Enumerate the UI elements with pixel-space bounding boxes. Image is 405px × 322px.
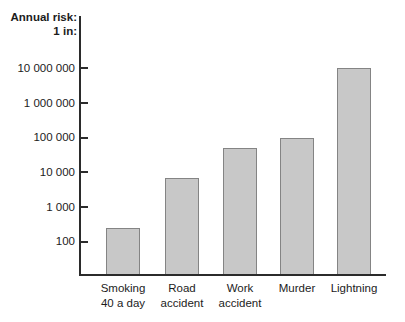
x-axis: [79, 274, 386, 276]
bar-lightning: [337, 68, 371, 275]
x-category-label: Lightning: [319, 281, 389, 296]
y-tick-label: 10 000: [40, 166, 75, 179]
y-tick-label: 1 000 000: [24, 97, 75, 110]
chart-title-line2: 1 in:: [11, 25, 77, 39]
y-axis-tick: [81, 241, 88, 243]
bar-smoking-40-a-day: [106, 228, 140, 275]
y-tick-label: 100: [56, 235, 75, 248]
y-tick-label: 100 000: [33, 131, 75, 144]
y-tick-label: 1 000: [46, 201, 75, 214]
x-category-label-line: accident: [205, 296, 275, 311]
chart-title: Annual risk: 1 in:: [11, 11, 77, 38]
chart-title-line1: Annual risk:: [11, 11, 77, 25]
bar-murder: [280, 138, 314, 275]
bar-work-accident: [223, 148, 257, 275]
y-axis-tick: [81, 137, 88, 139]
risk-bar-chart: Annual risk: 1 in: 10 000 0001 000 00010…: [0, 0, 405, 322]
y-tick-label: 10 000 000: [17, 62, 75, 75]
y-axis: [79, 16, 81, 276]
y-axis-tick: [81, 67, 88, 69]
y-axis-tick: [81, 171, 88, 173]
y-axis-tick: [81, 206, 88, 208]
bar-road-accident: [165, 178, 199, 275]
x-category-label-line: Lightning: [319, 281, 389, 296]
y-axis-tick: [81, 102, 88, 104]
